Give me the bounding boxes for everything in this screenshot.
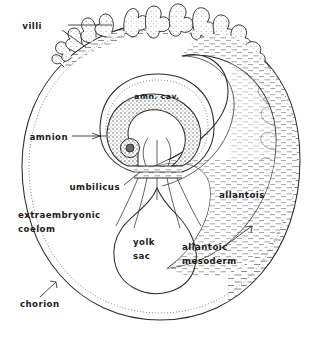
- label-amniotic-cavity: amn. cav.: [134, 92, 179, 101]
- label-allantois: allantois: [219, 190, 265, 200]
- label-extraembryonic-coelom-line1: extraembryonic: [18, 210, 101, 220]
- label-amnion: amnion: [29, 132, 68, 142]
- embryo-body: [107, 94, 201, 166]
- label-extraembryonic-coelom-line2: coelom: [18, 224, 55, 234]
- yolk-sac: [114, 188, 197, 294]
- embryo-membranes-diagram: villi amnion amn. cav. umbilicus extraem…: [0, 0, 330, 340]
- label-umbilicus: umbilicus: [70, 182, 120, 192]
- label-allantoic-mesoderm-line2: mesoderm: [182, 256, 237, 266]
- label-villi: villi: [22, 21, 42, 31]
- label-yolk-sac-line1: yolk: [133, 237, 155, 247]
- label-allantoic-mesoderm-line1: allantoic: [182, 242, 228, 252]
- label-yolk-sac-line2: sac: [133, 251, 150, 261]
- label-chorion: chorion: [20, 299, 59, 309]
- diagram-canvas: villi amnion amn. cav. umbilicus extraem…: [0, 0, 330, 340]
